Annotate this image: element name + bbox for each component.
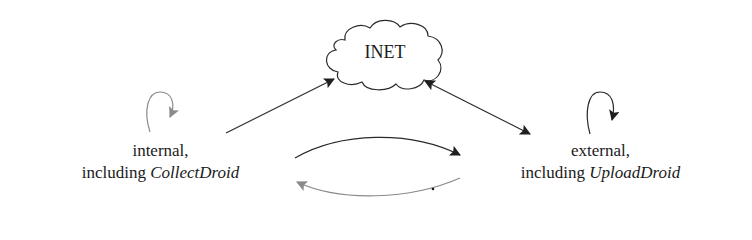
internal-node-title: internal, — [38, 140, 283, 162]
external-node-subtitle: including UploadDroid — [478, 162, 723, 184]
edge-inet-external-bidirectional — [425, 81, 530, 134]
edge-external-to-internal — [297, 178, 460, 196]
external-node: external, including UploadDroid — [478, 140, 723, 184]
inet-label: INET — [326, 42, 444, 63]
internal-node: internal, including CollectDroid — [38, 140, 283, 184]
internal-node-prefix: including — [82, 163, 150, 182]
edge-internal-to-external — [295, 137, 460, 158]
edge-internal-to-inet — [226, 79, 334, 133]
uploaddroid-label: UploadDroid — [589, 163, 680, 182]
collectdroid-label: CollectDroid — [150, 163, 239, 182]
external-node-prefix: including — [521, 163, 589, 182]
internal-node-subtitle: including CollectDroid — [38, 162, 283, 184]
stray-dot — [432, 188, 435, 191]
external-node-title: external, — [478, 140, 723, 162]
internal-self-loop — [147, 92, 173, 132]
external-self-loop — [587, 92, 613, 134]
